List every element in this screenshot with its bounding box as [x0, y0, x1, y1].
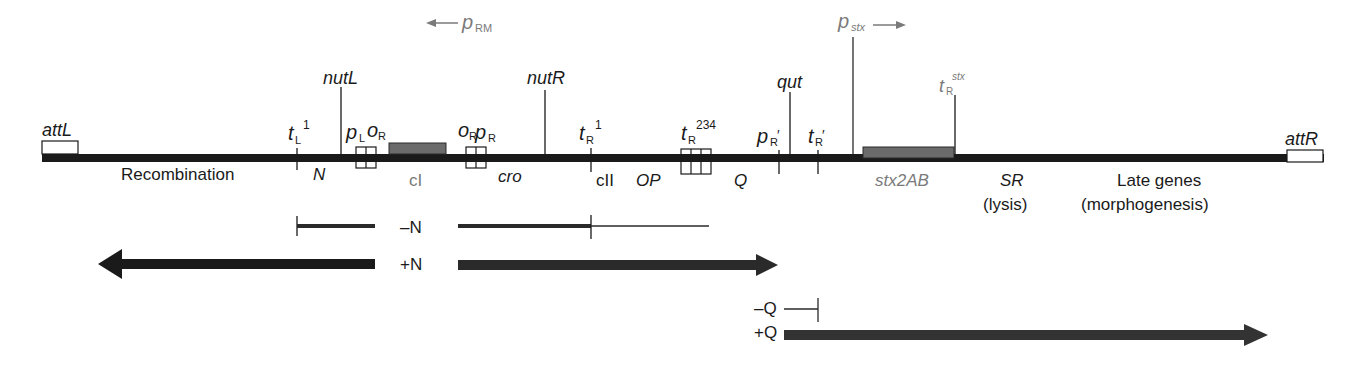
o-r-sub: R — [378, 130, 386, 142]
gene-cii-label: cII — [596, 171, 614, 190]
p-r-sub: R — [488, 132, 496, 144]
gene-q-label: Q — [734, 171, 747, 190]
t-r-prime-mark: ′ — [822, 127, 825, 143]
arrow-left-icon — [98, 249, 122, 279]
t-r234-base: t — [681, 122, 688, 144]
stx2ab-gene-box — [863, 147, 954, 158]
p-stx-base: p — [837, 10, 849, 32]
gene-n-label: N — [313, 165, 326, 184]
late-genes-label: Late genes — [1117, 171, 1201, 190]
att-r-box — [1287, 150, 1323, 162]
genome-backbone — [42, 154, 1324, 162]
minus-n-right-bar — [458, 224, 591, 228]
t-r1-sub: R — [586, 134, 594, 146]
t-l1-sub: L — [295, 134, 301, 146]
att-r-site: attR — [1285, 129, 1323, 162]
gene-op-label: OP — [636, 171, 661, 190]
arrow-right-icon — [1244, 324, 1268, 346]
minus-n-left-bar — [297, 224, 375, 228]
att-r-label: attR — [1285, 129, 1318, 149]
nut-r-label: nutR — [527, 68, 565, 88]
p-r-base: p — [474, 121, 486, 143]
plus-q-label: +Q — [754, 323, 777, 342]
o-r-base: o — [367, 119, 378, 141]
p-rm-sub: RM — [475, 22, 492, 34]
p-stx-sub: stx — [851, 21, 866, 33]
t-l1-base: t — [288, 122, 295, 144]
t-l1-terminator: t L 1 — [288, 118, 310, 170]
t-r1-sup: 1 — [595, 118, 602, 132]
gene-sr-note: (lysis) — [983, 195, 1027, 214]
p-l-sub: L — [359, 132, 365, 144]
t-l1-sup: 1 — [303, 118, 310, 132]
phage-genome-diagram: p RM p stx attL attR t L 1 nutL p L o R — [0, 0, 1367, 369]
nut-r-site: nutR — [527, 68, 565, 155]
att-l-site: attL — [42, 120, 78, 154]
late-genes-note: (morphogenesis) — [1081, 195, 1209, 214]
arrow-right-icon — [756, 254, 778, 276]
qut-site: qut — [777, 72, 803, 155]
recombination-label: Recombination — [121, 165, 234, 184]
o-r2-base: o — [458, 119, 469, 141]
gene-ci-label: cI — [409, 171, 422, 190]
nut-l-label: nutL — [323, 68, 358, 88]
minus-n-label: –N — [400, 218, 422, 237]
plus-n-right-shaft — [458, 260, 760, 270]
plus-n-transcripts: +N — [98, 249, 778, 279]
t-r-stx-base: t — [939, 76, 945, 96]
gene-cro-label: cro — [498, 167, 522, 186]
plus-n-left-shaft — [116, 259, 375, 269]
t-r-stx-terminator: t R stx — [939, 71, 966, 157]
ci-gene-box — [389, 143, 446, 154]
gene-sr-label: SR — [1000, 171, 1024, 190]
plus-q-shaft — [784, 330, 1244, 340]
t-r-stx-sup: stx — [952, 71, 966, 82]
q-transcripts: –Q +Q — [754, 298, 1268, 346]
t-r1-terminator: t R 1 — [579, 118, 602, 172]
att-l-box — [42, 141, 78, 154]
p-l-base: p — [345, 121, 357, 143]
p-r-prime-mark: ′ — [777, 127, 780, 143]
arrow-head-icon — [426, 19, 436, 27]
t-r-prime-base: t — [808, 125, 815, 147]
plus-n-label: +N — [400, 255, 422, 274]
p-rm-promoter: p RM — [426, 11, 492, 34]
gene-stx2ab-label: stx2AB — [875, 171, 929, 190]
qut-label: qut — [777, 72, 803, 92]
t-r234-sup: 234 — [696, 118, 716, 132]
t-r-prime-terminator: t R ′ — [808, 125, 825, 174]
t-r1-base: t — [579, 122, 586, 144]
arrow-head-icon — [896, 21, 906, 29]
minus-q-label: –Q — [754, 299, 777, 318]
t-r-stx-sub: R — [946, 86, 953, 97]
p-r-prime-promoter: p R ′ — [756, 125, 780, 174]
p-stx-promoter: p stx — [837, 10, 906, 158]
att-l-label: attL — [42, 120, 72, 140]
t-r234-sub: R — [688, 134, 696, 146]
minus-n-transcripts: –N — [297, 215, 709, 239]
t-r234-terminators: t R 234 — [681, 118, 716, 174]
p-rm-base: p — [461, 11, 473, 33]
p-r-prime-base: p — [756, 125, 768, 147]
